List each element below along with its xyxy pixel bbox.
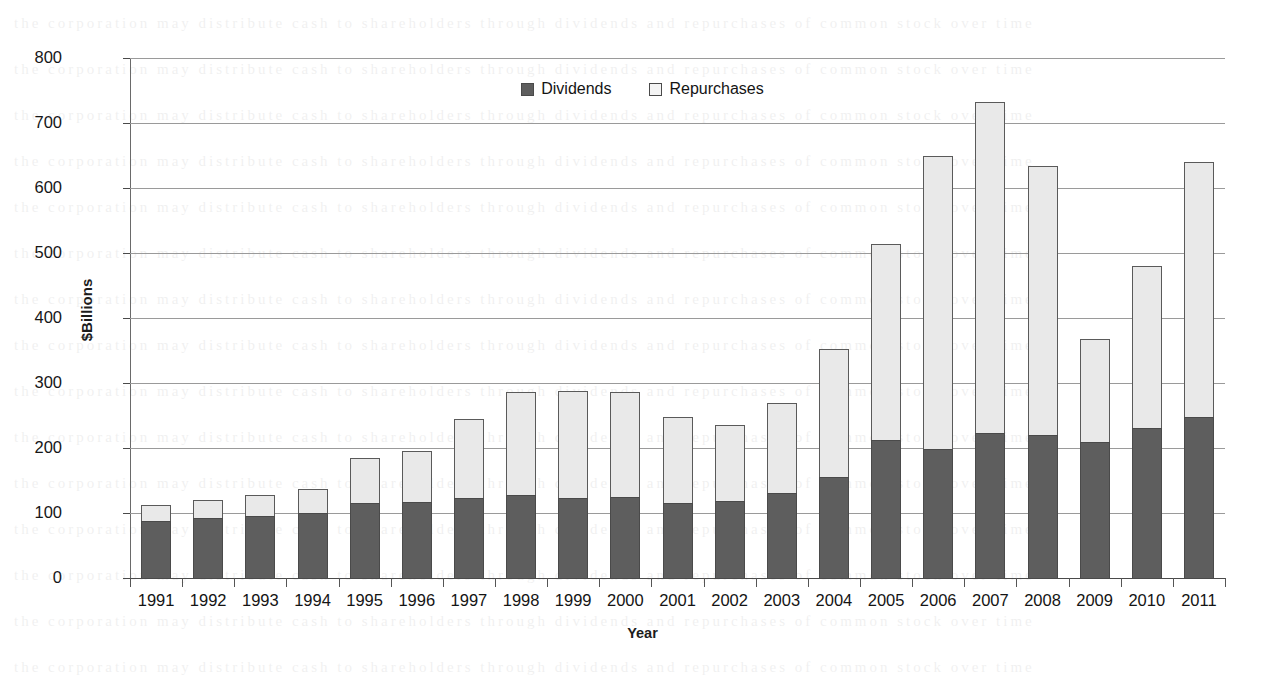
bar-segment-repurchases[interactable] [245, 495, 275, 516]
bar-group[interactable] [871, 58, 901, 578]
bar-group[interactable] [610, 58, 640, 578]
bar-group[interactable] [1132, 58, 1162, 578]
bar-stack[interactable] [819, 349, 849, 578]
bar-group[interactable] [923, 58, 953, 578]
bar-segment-dividends[interactable] [923, 449, 953, 578]
x-tick-mark [234, 578, 235, 587]
bar-segment-dividends[interactable] [193, 518, 223, 578]
bar-segment-repurchases[interactable] [1184, 162, 1214, 417]
bar-group[interactable] [715, 58, 745, 578]
bar-stack[interactable] [767, 403, 797, 578]
bar-segment-dividends[interactable] [454, 498, 484, 578]
bar-group[interactable] [402, 58, 432, 578]
y-tick-mark [123, 188, 130, 189]
bar-segment-repurchases[interactable] [350, 458, 380, 504]
bar-group[interactable] [1080, 58, 1110, 578]
bar-segment-repurchases[interactable] [1080, 339, 1110, 441]
bar-stack[interactable] [193, 500, 223, 578]
bar-segment-repurchases[interactable] [975, 102, 1005, 433]
bar-segment-dividends[interactable] [298, 513, 328, 578]
bar-stack[interactable] [1080, 339, 1110, 578]
bar-group[interactable] [245, 58, 275, 578]
bar-segment-repurchases[interactable] [506, 392, 536, 495]
bar-stack[interactable] [610, 392, 640, 578]
x-tick-label: 1998 [495, 592, 547, 609]
bar-segment-repurchases[interactable] [1132, 266, 1162, 428]
bar-group[interactable] [193, 58, 223, 578]
bar-segment-dividends[interactable] [715, 501, 745, 578]
x-tick-mark [547, 578, 548, 587]
bar-segment-repurchases[interactable] [1028, 166, 1058, 435]
bar-segment-dividends[interactable] [610, 497, 640, 578]
bar-segment-repurchases[interactable] [298, 489, 328, 513]
bar-stack[interactable] [141, 505, 171, 578]
bar-segment-repurchases[interactable] [558, 391, 588, 498]
bar-group[interactable] [558, 58, 588, 578]
bar-segment-dividends[interactable] [767, 493, 797, 578]
bar-stack[interactable] [1132, 266, 1162, 578]
y-tick-mark [123, 318, 130, 319]
bar-stack[interactable] [454, 419, 484, 578]
bar-group[interactable] [454, 58, 484, 578]
bar-group[interactable] [663, 58, 693, 578]
bar-group[interactable] [1028, 58, 1058, 578]
bar-segment-dividends[interactable] [506, 495, 536, 578]
bar-stack[interactable] [975, 102, 1005, 578]
bar-stack[interactable] [245, 495, 275, 578]
bar-segment-dividends[interactable] [141, 521, 171, 578]
bar-stack[interactable] [715, 425, 745, 578]
bar-segment-repurchases[interactable] [767, 403, 797, 493]
bar-stack[interactable] [1028, 166, 1058, 578]
bar-segment-repurchases[interactable] [454, 419, 484, 498]
bar-stack[interactable] [298, 489, 328, 578]
bar-group[interactable] [506, 58, 536, 578]
bar-segment-dividends[interactable] [663, 503, 693, 578]
bar-segment-repurchases[interactable] [819, 349, 849, 477]
bar-stack[interactable] [506, 392, 536, 578]
bar-segment-dividends[interactable] [871, 440, 901, 578]
bar-stack[interactable] [923, 156, 953, 578]
bar-group[interactable] [975, 58, 1005, 578]
x-tick-mark [286, 578, 287, 587]
y-tick-label: 300 [2, 374, 62, 391]
x-tick-label: 1993 [234, 592, 286, 609]
bar-stack[interactable] [663, 417, 693, 578]
bar-stack[interactable] [558, 391, 588, 578]
bar-stack[interactable] [350, 458, 380, 578]
bar-segment-repurchases[interactable] [923, 156, 953, 449]
bar-segment-dividends[interactable] [1184, 417, 1214, 578]
bar-segment-repurchases[interactable] [402, 451, 432, 502]
bar-segment-dividends[interactable] [402, 502, 432, 578]
bar-stack[interactable] [1184, 162, 1214, 578]
bar-stack[interactable] [871, 244, 901, 578]
bar-segment-repurchases[interactable] [715, 425, 745, 502]
x-tick-mark [1069, 578, 1070, 587]
y-tick-label: 500 [2, 244, 62, 261]
bar-segment-repurchases[interactable] [193, 500, 223, 518]
bar-segment-repurchases[interactable] [663, 417, 693, 503]
bar-stack[interactable] [402, 451, 432, 578]
bar-segment-dividends[interactable] [1028, 435, 1058, 578]
bar-segment-dividends[interactable] [245, 516, 275, 578]
x-tick-mark [1225, 578, 1226, 587]
bars-layer [130, 58, 1225, 578]
x-tick-mark [860, 578, 861, 587]
bar-segment-dividends[interactable] [558, 498, 588, 578]
bar-segment-repurchases[interactable] [610, 392, 640, 497]
bar-segment-repurchases[interactable] [141, 505, 171, 521]
bar-segment-dividends[interactable] [350, 503, 380, 578]
bar-group[interactable] [141, 58, 171, 578]
bar-group[interactable] [767, 58, 797, 578]
bar-group[interactable] [1184, 58, 1214, 578]
bar-group[interactable] [298, 58, 328, 578]
bar-segment-repurchases[interactable] [871, 244, 901, 440]
x-tick-mark [182, 578, 183, 587]
x-tick-label: 1991 [130, 592, 182, 609]
bar-group[interactable] [350, 58, 380, 578]
bar-group[interactable] [819, 58, 849, 578]
bar-segment-dividends[interactable] [975, 433, 1005, 578]
bar-segment-dividends[interactable] [1132, 428, 1162, 578]
y-tick-label: 200 [2, 439, 62, 456]
bar-segment-dividends[interactable] [1080, 442, 1110, 579]
bar-segment-dividends[interactable] [819, 477, 849, 578]
